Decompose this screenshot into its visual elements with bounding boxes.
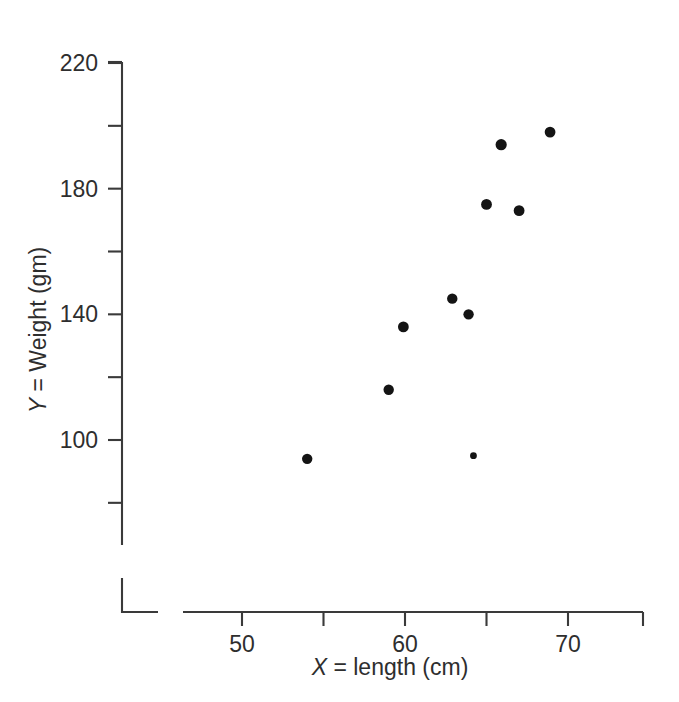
data-point <box>463 309 473 319</box>
axis-break-elbow <box>122 578 158 612</box>
axis-break-corner <box>122 578 158 612</box>
data-points <box>302 127 555 464</box>
x-axis <box>183 612 643 626</box>
y-axis-tick-labels: 220180140100 <box>60 50 98 453</box>
data-point <box>447 293 457 303</box>
scatter-plot-svg: 220180140100 506070 X = length (cm) Y = … <box>0 0 679 702</box>
y-axis-tick-label: 100 <box>60 427 98 453</box>
x-axis-title: X = length (cm) <box>311 654 469 680</box>
y-axis-tick-label: 220 <box>60 50 98 76</box>
x-axis-tick-label: 50 <box>229 631 255 657</box>
y-axis-title: Y = Weight (gm) <box>25 247 51 413</box>
data-point <box>384 385 394 395</box>
scatter-plot-figure: 220180140100 506070 X = length (cm) Y = … <box>0 0 679 702</box>
x-axis-tick-label: 70 <box>555 631 581 657</box>
y-axis <box>108 62 122 545</box>
data-point <box>398 322 409 333</box>
data-point <box>496 139 507 150</box>
data-point <box>514 205 525 216</box>
y-axis-tick-label: 140 <box>60 301 98 327</box>
data-point <box>302 454 312 464</box>
y-axis-tick-label: 180 <box>60 176 98 202</box>
data-point <box>545 127 556 138</box>
data-point <box>481 199 492 210</box>
data-point <box>470 452 477 459</box>
